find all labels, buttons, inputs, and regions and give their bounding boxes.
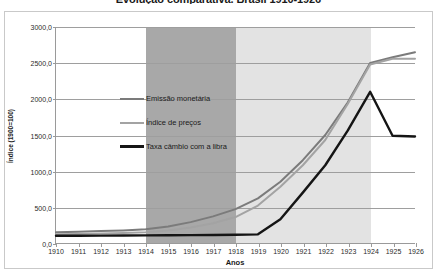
x-tick-label: 1920 [273,248,289,255]
x-tick-mark [56,243,57,247]
legend-item[interactable]: Taxa câmbio com a libra [120,142,227,151]
y-tick-label: 2500,0 [31,60,52,67]
legend-item[interactable]: Índice de preços [120,118,227,127]
x-tick-mark [416,243,417,247]
x-tick-label: 1913 [116,248,132,255]
x-tick-label: 1917 [206,248,222,255]
x-tick-mark [146,243,147,247]
x-tick-label: 1911 [71,248,86,255]
y-tick-label: 500,0 [34,204,52,211]
y-axis-title: Índice (1900=100) [7,109,14,163]
x-tick-mark [79,243,80,247]
x-tick-label: 1914 [138,248,154,255]
x-tick-label: 1922 [318,248,334,255]
x-tick-label: 1916 [183,248,199,255]
x-tick-label: 1923 [341,248,357,255]
y-tick-mark [53,99,56,100]
legend-swatch-icon [120,145,144,148]
series-lines [56,27,415,243]
x-tick-label: 1921 [296,248,312,255]
x-tick-label: 1926 [408,248,424,255]
x-axis-title: Anos [55,258,415,267]
x-tick-mark [371,243,372,247]
x-tick-mark [236,243,237,247]
series-line [56,59,415,235]
x-tick-mark [214,243,215,247]
x-tick-mark [349,243,350,247]
x-tick-mark [394,243,395,247]
y-tick-label: 2000,0 [31,96,52,103]
y-tick-label: 3000,0 [31,24,52,31]
chart-legend: Emissão monetáriaÍndice de preçosTaxa câ… [120,94,227,151]
x-tick-mark [169,243,170,247]
x-tick-label: 1910 [48,248,64,255]
legend-swatch-icon [120,98,144,100]
x-tick-mark [281,243,282,247]
legend-swatch-icon [120,122,144,124]
x-tick-mark [304,243,305,247]
legend-label: Emissão monetária [146,94,210,103]
legend-item[interactable]: Emissão monetária [120,94,227,103]
x-tick-mark [124,243,125,247]
x-tick-mark [101,243,102,247]
y-tick-mark [53,172,56,173]
x-tick-label: 1919 [251,248,267,255]
x-tick-mark [326,243,327,247]
legend-label: Taxa câmbio com a libra [146,142,227,151]
x-tick-label: 1918 [228,248,244,255]
x-tick-mark [259,243,260,247]
chart-frame: Índice (1900=100) Anos 0,0500,01000,0150… [4,11,433,269]
y-tick-mark [53,63,56,64]
y-tick-mark [53,136,56,137]
y-tick-label: 1500,0 [31,132,52,139]
series-line [56,92,415,236]
x-tick-label: 1924 [363,248,379,255]
plot-area: 0,0500,01000,01500,02000,02500,03000,0 1… [55,27,415,244]
chart-title: Evolução comparativa. Brasil 1910-1926 [0,0,437,4]
x-tick-label: 1912 [93,248,109,255]
x-tick-mark [191,243,192,247]
y-tick-label: 0,0 [42,241,52,248]
x-tick-label: 1925 [386,248,402,255]
chart-container: Evolução comparativa. Brasil 1910-1926 Í… [0,0,437,280]
x-tick-label: 1915 [161,248,177,255]
y-tick-mark [53,208,56,209]
legend-label: Índice de preços [146,118,201,127]
y-tick-label: 1000,0 [31,168,52,175]
y-tick-mark [53,27,56,28]
